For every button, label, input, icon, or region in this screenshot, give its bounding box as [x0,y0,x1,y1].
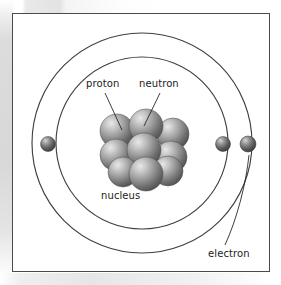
page-background: proton neutron nucleus electron [0,0,281,285]
atom-diagram: proton neutron nucleus electron [13,14,269,271]
nucleus-cluster [100,109,189,191]
label-electron: electron [208,249,250,259]
electron-inner-right [216,137,231,152]
label-proton: proton [86,79,119,89]
label-nucleus: nucleus [101,191,140,201]
electron-outer-left [41,137,56,152]
scan-artifact-top [0,0,281,13]
scan-artifact-bottom [0,273,281,285]
atom-vector-graphic [13,14,269,270]
label-neutron: neutron [139,79,179,89]
electron-outer-right [240,136,256,152]
nucleon-front-center [129,157,163,191]
diagram-frame: proton neutron nucleus electron [12,13,270,272]
leader-electron [225,155,249,245]
